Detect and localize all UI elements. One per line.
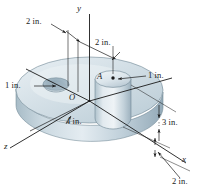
dimension-label-hole-offset-z: 2 in. <box>26 17 42 26</box>
point-label-origin: O <box>69 93 75 102</box>
dimension-label-cylinder-offset-x: 2 in. <box>95 38 111 47</box>
dimension-label-disk-thickness: 2 in. <box>172 177 188 186</box>
dimension-label-disk-radius: 4 in. <box>66 117 82 126</box>
axis-label-z: z <box>4 142 8 151</box>
mechanics-figure: 2 in. 2 in. 1 in. 1 in. 4 in. 3 in. 2 in… <box>0 0 198 192</box>
point-label-a: A <box>97 72 102 81</box>
figure-drawing <box>0 0 198 192</box>
dimension-label-hole-radius: 1 in. <box>5 81 21 90</box>
dimension-label-cylinder-radius: 1 in. <box>148 71 164 80</box>
dimension-label-cylinder-height: 3 in. <box>162 118 178 127</box>
axis-label-x: x <box>182 155 186 164</box>
axis-label-y: y <box>77 4 81 13</box>
